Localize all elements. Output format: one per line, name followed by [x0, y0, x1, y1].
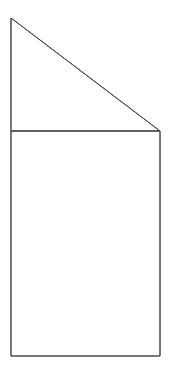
- canvas-background: [0, 0, 182, 373]
- geometric-figure-canvas: [0, 0, 182, 373]
